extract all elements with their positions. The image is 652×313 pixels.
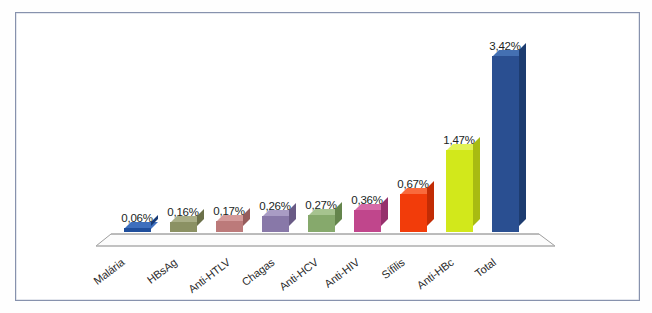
category-label-total: Total bbox=[473, 256, 498, 279]
bar-chagas[interactable] bbox=[262, 216, 289, 232]
bar-group-hbsag[interactable]: 0,16% bbox=[163, 206, 203, 232]
bar-front-face bbox=[124, 228, 151, 232]
bar-group-sifilis[interactable]: 0,67% bbox=[393, 178, 433, 232]
bar-group-anti-hbc[interactable]: 1,47% bbox=[439, 134, 479, 232]
category-label-hbsag: HBsAg bbox=[145, 256, 179, 286]
category-label-anti-hiv: Anti-HIV bbox=[322, 256, 361, 290]
bar-sifilis[interactable] bbox=[400, 194, 427, 232]
bar-front-face bbox=[308, 215, 335, 232]
category-label-malaria: Malária bbox=[91, 256, 126, 287]
bar-front-face bbox=[262, 216, 289, 232]
bar-anti-htlv[interactable] bbox=[216, 221, 243, 232]
bar-group-chagas[interactable]: 0,26% bbox=[255, 200, 295, 232]
bar-group-anti-hiv[interactable]: 0,36% bbox=[347, 194, 387, 232]
category-label-anti-hcv: Anti-HCV bbox=[277, 256, 320, 293]
bar-group-anti-hcv[interactable]: 0,27% bbox=[301, 199, 341, 232]
bar-group-malaria[interactable]: 0,06% bbox=[117, 212, 157, 232]
bar-front-face bbox=[400, 194, 427, 232]
bar-group-total[interactable]: 3,42% bbox=[485, 40, 525, 232]
bar-front-face bbox=[354, 210, 381, 232]
chart-frame: 0,06% 0,16% 0,17% bbox=[15, 12, 640, 301]
bar-side-face bbox=[473, 137, 480, 226]
chart-plot-area: 0,06% 0,16% 0,17% bbox=[16, 13, 639, 300]
bar-group-anti-htlv[interactable]: 0,17% bbox=[209, 205, 249, 232]
category-label-chagas: Chagas bbox=[240, 256, 277, 288]
category-label-sifilis: Sífilis bbox=[379, 256, 407, 281]
category-label-anti-htlv: Anti-HTLV bbox=[186, 256, 232, 295]
bar-malaria[interactable] bbox=[124, 228, 151, 232]
bar-side-face bbox=[519, 43, 526, 226]
scanned-page: 0,06% 0,16% 0,17% bbox=[0, 0, 652, 313]
bar-side-face bbox=[427, 181, 434, 226]
bar-total[interactable] bbox=[492, 56, 519, 232]
chart-floor-plane bbox=[16, 13, 641, 302]
bar-hbsag[interactable] bbox=[170, 222, 197, 232]
bar-anti-hiv[interactable] bbox=[354, 210, 381, 232]
bar-front-face bbox=[446, 150, 473, 232]
bar-front-face bbox=[170, 222, 197, 232]
category-label-anti-hbc: Anti-HBc bbox=[415, 256, 456, 291]
bar-anti-hbc[interactable] bbox=[446, 150, 473, 232]
bar-front-face bbox=[492, 56, 519, 232]
bar-front-face bbox=[216, 221, 243, 232]
bar-anti-hcv[interactable] bbox=[308, 215, 335, 232]
